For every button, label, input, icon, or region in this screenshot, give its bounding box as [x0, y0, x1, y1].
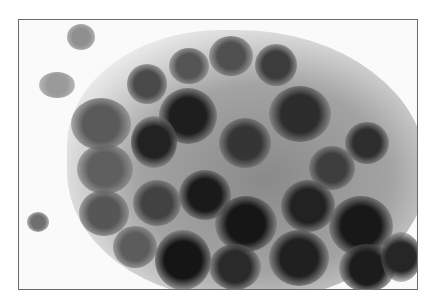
- cell-nucleus: [133, 180, 181, 226]
- cell-nucleus: [269, 230, 329, 286]
- cell-nucleus: [113, 226, 157, 268]
- cell-nucleus: [219, 118, 271, 168]
- cell-nucleus: [209, 244, 261, 290]
- cell-nucleus: [155, 230, 211, 290]
- cell-nucleus: [77, 144, 133, 194]
- cell-nucleus: [215, 196, 277, 252]
- cell-nucleus: [269, 86, 331, 142]
- cell-nucleus: [381, 232, 418, 282]
- cell-nucleus: [39, 72, 75, 98]
- cell-nucleus: [169, 48, 209, 84]
- micrograph-frame: [18, 19, 418, 290]
- cell-nucleus: [131, 116, 177, 168]
- cell-nucleus: [71, 98, 131, 150]
- cell-nucleus: [127, 64, 167, 104]
- cell-nucleus: [255, 44, 297, 86]
- cell-nucleus: [281, 180, 335, 232]
- cell-nucleus: [67, 24, 95, 50]
- cell-nucleus: [209, 36, 253, 76]
- cell-nucleus: [27, 212, 49, 232]
